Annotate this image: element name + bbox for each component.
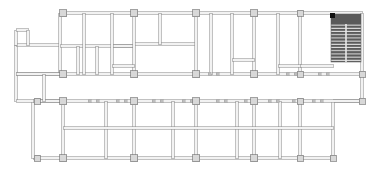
wall-block-vert-g — [210, 13, 213, 74]
opening-tick-upper-1 — [216, 72, 219, 75]
wall-left-notch-top — [16, 29, 28, 32]
stair-upper-landing — [331, 14, 361, 24]
floor-plan-drawing — [0, 0, 376, 174]
wall-left-low-vert — [43, 74, 46, 101]
column-marker-19 — [60, 155, 67, 162]
opening-tick-lower-13 — [276, 99, 279, 102]
column-marker-0 — [60, 10, 67, 17]
wall-left-notch-right — [27, 30, 30, 45]
column-marker-20 — [131, 155, 138, 162]
column-marker-23 — [297, 155, 303, 161]
wall-stub-wall-4 — [300, 65, 333, 68]
column-marker-7 — [193, 71, 200, 78]
opening-tick-lower-16 — [312, 99, 315, 102]
wall-upper-left-h — [16, 73, 60, 76]
wall-upper-vert-c — [77, 46, 80, 74]
column-marker-9 — [297, 71, 303, 77]
wall-block-vert-i — [253, 13, 256, 74]
wall-lower-horiz-1 — [63, 127, 333, 130]
opening-tick-lower-6 — [182, 99, 185, 102]
column-marker-4 — [297, 10, 303, 16]
column-marker-16 — [297, 98, 303, 104]
opening-tick-lower-0 — [88, 99, 91, 102]
corner-dot-marker — [330, 13, 335, 18]
column-marker-6 — [131, 71, 138, 78]
wall-block-vert-e — [159, 13, 162, 44]
wall-upper-partition-h2 — [112, 45, 134, 48]
wall-block-h-mid — [134, 43, 196, 46]
opening-tick-lower-14 — [292, 99, 295, 102]
wall-upper-vert-a — [83, 13, 86, 74]
opening-tick-lower-2 — [116, 99, 119, 102]
column-marker-21 — [193, 155, 200, 162]
column-marker-22 — [251, 155, 258, 162]
opening-tick-lower-1 — [96, 99, 99, 102]
wall-stub-wall-1 — [232, 59, 254, 62]
opening-tick-upper-2 — [286, 72, 289, 75]
opening-tick-lower-17 — [320, 99, 323, 102]
plan-background — [0, 0, 376, 174]
wall-left-notch-left — [15, 30, 18, 45]
opening-tick-lower-10 — [244, 99, 247, 102]
column-marker-18 — [34, 155, 40, 161]
opening-tick-upper-4 — [318, 72, 321, 75]
wall-block-vert-h — [231, 13, 234, 74]
column-marker-15 — [251, 98, 258, 105]
wall-stub-wall-3 — [112, 65, 134, 68]
column-marker-10 — [359, 71, 365, 77]
wall-upper-vert-d — [96, 46, 99, 74]
opening-tick-lower-4 — [152, 99, 155, 102]
column-marker-1 — [131, 10, 138, 17]
column-marker-14 — [193, 98, 200, 105]
opening-tick-upper-5 — [326, 72, 329, 75]
opening-tick-lower-5 — [160, 99, 163, 102]
wall-bottom-wall-main — [33, 157, 333, 160]
column-marker-8 — [251, 71, 258, 78]
column-marker-5 — [60, 71, 67, 78]
opening-tick-lower-9 — [224, 99, 227, 102]
column-marker-2 — [193, 10, 200, 17]
wall-stub-wall-2 — [278, 65, 300, 68]
column-marker-17 — [359, 98, 365, 104]
column-marker-13 — [131, 98, 138, 105]
wall-left-band-top — [16, 44, 60, 47]
wall-upper-left-vert — [59, 13, 62, 74]
opening-tick-lower-3 — [124, 99, 127, 102]
wall-mid-band-top — [16, 73, 362, 76]
opening-tick-upper-0 — [208, 72, 211, 75]
wall-block-vert-f — [195, 13, 198, 74]
stair-shaft-layer — [330, 13, 361, 62]
opening-tick-lower-12 — [268, 99, 271, 102]
column-marker-12 — [60, 98, 67, 105]
floor-plan-canvas — [0, 0, 376, 174]
column-marker-24 — [330, 155, 336, 161]
wall-left-wall-lower — [32, 101, 35, 158]
column-marker-3 — [251, 10, 258, 17]
column-marker-11 — [34, 98, 40, 104]
opening-tick-lower-8 — [216, 99, 219, 102]
